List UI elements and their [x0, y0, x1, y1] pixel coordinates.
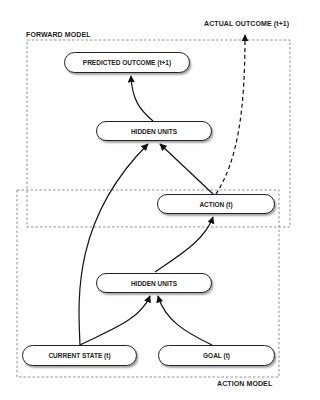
node-goal: GOAL (t) [158, 345, 275, 366]
edge-goal-to-hidden-action [158, 296, 212, 345]
edge-state-to-hidden-forward [79, 144, 148, 345]
edge-action-to-hidden-forward [160, 144, 213, 194]
actual-outcome-label: ACTUAL OUTCOME (t+1) [204, 20, 289, 27]
node-action: ACTION (t) [157, 194, 275, 214]
node-hidden-units-action: HIDDEN UNITS [96, 273, 212, 293]
edge-action-to-actual-outcome [216, 35, 245, 194]
action-model-label: ACTION MODEL [217, 380, 272, 387]
node-predicted-outcome: PREDICTED OUTCOME (t+1) [64, 52, 190, 73]
edge-hidden-to-action [155, 217, 213, 272]
node-hidden-units-forward: HIDDEN UNITS [96, 121, 212, 141]
forward-model-label: FORWARD MODEL [26, 31, 91, 38]
edge-hidden-to-predicted [131, 76, 153, 121]
edge-state-to-hidden-action [80, 296, 150, 345]
node-current-state: CURRENT STATE (t) [22, 345, 137, 366]
